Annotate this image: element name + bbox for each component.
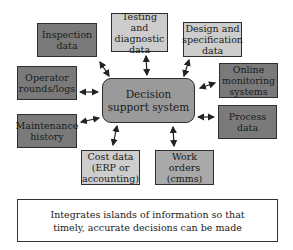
node-inspection-data: Inspection data	[37, 23, 97, 57]
caption-box: Integrates islands of information so tha…	[17, 199, 278, 242]
arrow-inspection	[100, 62, 109, 76]
arrow-maintenance	[81, 118, 99, 122]
arrow-online	[200, 83, 215, 88]
arrow-cost	[113, 126, 117, 145]
node-label: Maintenance history	[16, 120, 79, 142]
node-decision-support-system: Decision support system	[102, 78, 195, 123]
node-operator-rounds-logs: Operator rounds/logs	[17, 66, 77, 100]
node-label: Testing and diagnostic data	[114, 11, 165, 55]
node-label: Design and specification data	[182, 23, 243, 56]
node-process-data: Process data	[218, 105, 277, 139]
node-work-orders: Work orders (cmms)	[155, 150, 214, 185]
arrow-testing	[146, 56, 147, 75]
center-label: Decision support system	[108, 88, 190, 114]
node-label: Inspection data	[42, 29, 92, 51]
arrow-design	[184, 60, 189, 76]
node-label: Cost data (ERP or accounting)	[82, 151, 139, 184]
node-label: Online monitoring systems	[222, 64, 275, 97]
node-online-monitoring-systems: Online monitoring systems	[219, 63, 278, 98]
node-maintenance-history: Maintenance history	[17, 114, 77, 148]
node-testing-diagnostic-data: Testing and diagnostic data	[111, 13, 168, 52]
node-label: Process data	[229, 111, 266, 133]
caption-text: Integrates islands of information so tha…	[50, 208, 244, 234]
node-label: Operator rounds/logs	[19, 72, 75, 94]
arrow-workorders	[173, 127, 174, 146]
node-design-specification-data: Design and specification data	[183, 22, 242, 57]
node-cost-data: Cost data (ERP or accounting)	[81, 150, 140, 185]
node-label: Work orders (cmms)	[167, 151, 203, 184]
